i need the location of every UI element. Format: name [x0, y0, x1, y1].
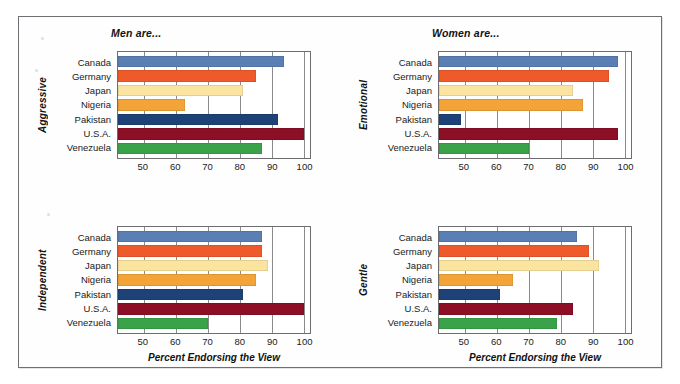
bar: [439, 128, 618, 139]
x-axis-ticks: 5060708090100: [438, 336, 632, 350]
x-tick-label: 70: [523, 161, 534, 172]
bar: [439, 289, 500, 300]
bar: [118, 260, 268, 271]
x-tick-label: 80: [235, 336, 246, 347]
bar-row: [439, 85, 631, 96]
x-tick-label: 70: [202, 336, 213, 347]
x-tick-label: 50: [138, 161, 149, 172]
x-tick-label: 100: [618, 161, 634, 172]
bar-row: [439, 70, 631, 81]
x-tick-label: 80: [556, 161, 567, 172]
category-labels: CanadaGermanyJapanNigeriaPakistanU.S.A.V…: [47, 55, 113, 155]
bar: [439, 274, 513, 285]
bar: [118, 231, 262, 242]
bar-row: [439, 260, 631, 271]
x-tick-label: 90: [588, 161, 599, 172]
plot-area-independent: [117, 226, 311, 334]
bar-row: [118, 143, 310, 154]
bar: [439, 318, 557, 329]
bar-row: [439, 303, 631, 314]
panel-emotional: Women are... Emotional CanadaGermanyJapa…: [340, 17, 661, 192]
bar-row: [439, 143, 631, 154]
x-tick-label: 90: [588, 336, 599, 347]
bar: [118, 143, 262, 154]
x-tick-label: 100: [618, 336, 634, 347]
bar-row: [118, 85, 310, 96]
category-labels: CanadaGermanyJapanNigeriaPakistanU.S.A.V…: [368, 55, 434, 155]
bar-row: [439, 56, 631, 67]
bar-row: [118, 260, 310, 271]
x-tick-label: 100: [297, 336, 313, 347]
category-label: Canada: [368, 230, 434, 244]
category-label: Nigeria: [368, 98, 434, 112]
category-label: Japan: [47, 84, 113, 98]
bar-row: [118, 114, 310, 125]
category-label: Germany: [368, 244, 434, 258]
x-tick-label: 60: [170, 336, 181, 347]
panel-independent: Independent CanadaGermanyJapanNigeriaPak…: [19, 192, 340, 367]
bar-row: [439, 114, 631, 125]
category-label: Venezuela: [368, 141, 434, 155]
bar-row: [118, 99, 310, 110]
bar: [118, 303, 304, 314]
category-label: Japan: [47, 259, 113, 273]
category-label: Canada: [47, 230, 113, 244]
category-label: Japan: [368, 84, 434, 98]
bar-row: [439, 289, 631, 300]
bar: [439, 231, 577, 242]
category-label: Germany: [47, 244, 113, 258]
bar: [439, 85, 573, 96]
x-tick-label: 70: [523, 336, 534, 347]
category-label: Venezuela: [47, 141, 113, 155]
panel-gentle: Gentle CanadaGermanyJapanNigeriaPakistan…: [340, 192, 661, 367]
x-tick-label: 50: [138, 336, 149, 347]
x-tick-label: 90: [267, 336, 278, 347]
category-label: Venezuela: [47, 316, 113, 330]
category-label: U.S.A.: [368, 301, 434, 315]
plot-area-aggressive: [117, 51, 311, 159]
x-axis-ticks: 5060708090100: [117, 161, 311, 175]
bar: [118, 318, 208, 329]
category-label: Pakistan: [47, 112, 113, 126]
bar-row: [118, 274, 310, 285]
x-tick-label: 50: [459, 336, 470, 347]
panel-title-men: Men are...: [111, 27, 161, 39]
panel-aggressive: Men are... Aggressive CanadaGermanyJapan…: [19, 17, 340, 192]
bar: [439, 99, 583, 110]
category-label: Pakistan: [368, 112, 434, 126]
category-label: Pakistan: [368, 287, 434, 301]
panel-title-women: Women are...: [432, 27, 500, 39]
bar: [118, 274, 256, 285]
x-tick-label: 60: [491, 161, 502, 172]
category-label: Japan: [368, 259, 434, 273]
category-label: Germany: [368, 69, 434, 83]
x-tick-label: 70: [202, 161, 213, 172]
x-tick-label: 90: [267, 161, 278, 172]
bar-row: [118, 231, 310, 242]
bar: [118, 289, 243, 300]
category-label: Canada: [47, 55, 113, 69]
bar: [439, 56, 618, 67]
bar: [439, 143, 529, 154]
x-axis-ticks: 5060708090100: [117, 336, 311, 350]
bar-row: [118, 56, 310, 67]
x-tick-label: 100: [297, 161, 313, 172]
bar-row: [118, 128, 310, 139]
bar: [439, 70, 609, 81]
bar: [118, 99, 185, 110]
bar-row: [439, 318, 631, 329]
category-label: U.S.A.: [47, 126, 113, 140]
bar-row: [439, 231, 631, 242]
bar-series-aggressive: [118, 56, 310, 154]
x-axis-label: Percent Endorsing the View: [438, 352, 632, 363]
bar: [118, 128, 304, 139]
plot-area-gentle: [438, 226, 632, 334]
x-tick-label: 50: [459, 161, 470, 172]
category-label: Nigeria: [47, 273, 113, 287]
bar: [439, 303, 573, 314]
bar-row: [439, 99, 631, 110]
bar-series-independent: [118, 231, 310, 329]
bar-row: [118, 303, 310, 314]
figure-frame: Men are... Aggressive CanadaGermanyJapan…: [18, 16, 662, 368]
x-axis-label: Percent Endorsing the View: [117, 352, 311, 363]
